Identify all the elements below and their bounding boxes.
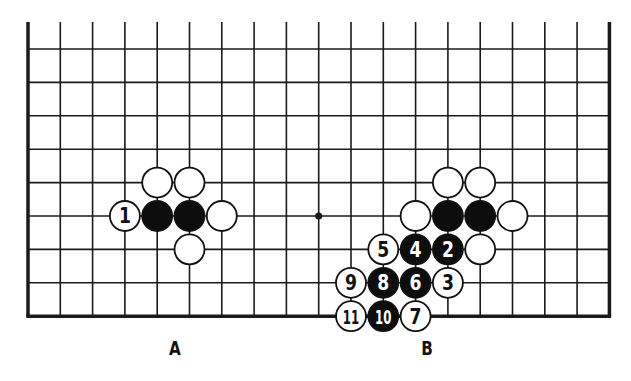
white-stone-icon [401,201,431,231]
white-stone-5: 5 [368,234,398,264]
board-grid [28,22,609,316]
diagram-label-b: B [421,339,433,358]
black-stone-icon [142,201,172,231]
white-stone-7: 7 [401,301,431,331]
star-points [315,212,322,219]
black-stone [465,201,495,231]
move-number: 2 [442,237,454,262]
white-stone-icon [142,168,172,198]
white-stone-icon [465,234,495,264]
black-stone-4: 4 [401,234,431,264]
black-stone [175,201,205,231]
go-board: 1542986311107 [0,0,631,381]
white-stone-icon [175,234,205,264]
move-number: 11 [343,306,359,329]
black-stone-icon [433,201,463,231]
white-stone-icon [498,201,528,231]
white-stone [175,168,205,198]
move-number: 10 [375,306,391,329]
black-stone-8: 8 [368,268,398,298]
move-number: 9 [345,271,357,296]
black-stone-2: 2 [433,234,463,264]
black-stone-icon [465,201,495,231]
white-stone [175,234,205,264]
white-stone-icon [207,201,237,231]
diagram-label-a: A [169,339,181,358]
white-stone-1: 1 [110,201,140,231]
white-stone [401,201,431,231]
black-stone-10: 10 [368,301,398,331]
white-stone-11: 11 [336,301,366,331]
white-stone-3: 3 [433,268,463,298]
white-stone-icon [433,168,463,198]
move-number: 4 [410,237,422,262]
move-number: 5 [377,237,389,262]
star-point-icon [315,212,322,219]
white-stone-icon [175,168,205,198]
move-number: 7 [410,304,422,329]
black-stone-icon [175,201,205,231]
white-stone-9: 9 [336,268,366,298]
move-number: 8 [377,271,389,296]
white-stone [433,168,463,198]
move-number: 1 [119,204,131,229]
white-stone-icon [465,168,495,198]
move-number: 6 [410,271,422,296]
white-stone [207,201,237,231]
white-stone [465,168,495,198]
black-stone [433,201,463,231]
black-stone-6: 6 [401,268,431,298]
black-stone [142,201,172,231]
white-stone [142,168,172,198]
white-stone [498,201,528,231]
move-number: 3 [442,271,454,296]
white-stone [465,234,495,264]
